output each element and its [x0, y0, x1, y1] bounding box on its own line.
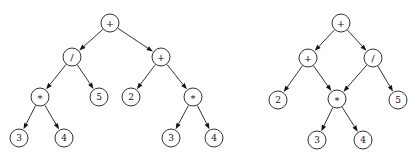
edge-R1-R3 [284, 66, 303, 92]
node-circle [55, 129, 73, 147]
edge-L6-L9 [176, 105, 189, 129]
edge-L2-L5 [137, 65, 155, 90]
arrow-head-icon [205, 123, 210, 130]
edge-L3-L8 [45, 105, 59, 129]
edge-L0-L2 [118, 28, 153, 51]
node-layer: +/+*52*3434 [10, 14, 223, 147]
graph-node-operator-R2[interactable]: / [364, 49, 382, 67]
edge-R4-R6 [321, 108, 333, 132]
edge-L2-L6 [167, 64, 187, 89]
node-circle [389, 91, 407, 109]
edge-R4-R7 [342, 107, 358, 132]
edge-R0-R1 [315, 30, 335, 51]
edge-L6-L10 [197, 105, 209, 129]
expression-graphs-figure: +/+*52*3434++/2*534 [0, 0, 418, 162]
node-circle [205, 129, 223, 147]
edge-layer [284, 30, 393, 132]
arrow-head-icon [176, 123, 181, 130]
graph-node-operator-L2[interactable]: + [152, 48, 170, 66]
edge-L0-L1 [79, 29, 103, 50]
edge-R2-R4 [343, 65, 366, 92]
graph-node-operator-R4[interactable]: * [328, 90, 346, 108]
node-circle [299, 49, 317, 67]
node-circle [364, 49, 382, 67]
graph-node-operator-L0[interactable]: + [101, 14, 119, 32]
edge-L1-L3 [46, 64, 66, 89]
node-circle [10, 129, 28, 147]
node-circle [354, 131, 372, 149]
node-circle [152, 48, 170, 66]
edge-L3-L7 [23, 105, 35, 129]
arrow-head-icon [284, 86, 289, 92]
node-circle [269, 91, 287, 109]
edge-R1-R4 [313, 66, 331, 91]
expression-graphs-canvas: +/+*52*3434++/2*534 [0, 0, 418, 162]
graph-node-operator-R0[interactable]: + [332, 14, 350, 32]
arrow-head-icon [54, 123, 59, 130]
graph-node-leaf-R5[interactable]: 5 [389, 91, 407, 109]
graph-node-leaf-L4[interactable]: 5 [90, 88, 108, 106]
graph-node-operator-L1[interactable]: / [63, 48, 81, 66]
node-layer: ++/2*534 [269, 14, 407, 149]
edge-R0-R2 [347, 30, 366, 51]
graph-node-operator-L6[interactable]: * [184, 88, 202, 106]
arrow-head-icon [326, 85, 331, 91]
edge-L1-L4 [77, 65, 93, 89]
node-circle [332, 14, 350, 32]
node-circle [90, 88, 108, 106]
expression-dag: ++/2*534 [269, 14, 407, 149]
node-circle [63, 48, 81, 66]
node-circle [31, 88, 49, 106]
node-circle [122, 88, 140, 106]
graph-node-leaf-R3[interactable]: 2 [269, 91, 287, 109]
graph-node-operator-R1[interactable]: + [299, 49, 317, 67]
graph-node-leaf-L10[interactable]: 4 [205, 129, 223, 147]
arrow-head-icon [146, 46, 152, 51]
arrow-head-icon [137, 83, 143, 89]
node-circle [101, 14, 119, 32]
graph-node-leaf-L5[interactable]: 2 [122, 88, 140, 106]
graph-node-leaf-R7[interactable]: 4 [354, 131, 372, 149]
graph-node-leaf-L8[interactable]: 4 [55, 129, 73, 147]
graph-node-leaf-L9[interactable]: 3 [162, 129, 180, 147]
graph-node-operator-L3[interactable]: * [31, 88, 49, 106]
node-circle [328, 90, 346, 108]
arrow-head-icon [352, 125, 357, 131]
node-circle [184, 88, 202, 106]
graph-node-leaf-R6[interactable]: 3 [308, 131, 326, 149]
graph-node-leaf-L7[interactable]: 3 [10, 129, 28, 147]
node-circle [162, 129, 180, 147]
edge-layer [23, 28, 209, 129]
arrow-head-icon [388, 85, 393, 92]
expression-tree: +/+*52*3434 [10, 14, 223, 147]
node-circle [308, 131, 326, 149]
arrow-head-icon [88, 82, 93, 88]
edge-R2-R5 [378, 66, 393, 91]
arrow-head-icon [23, 123, 28, 130]
arrow-head-icon [321, 125, 326, 132]
